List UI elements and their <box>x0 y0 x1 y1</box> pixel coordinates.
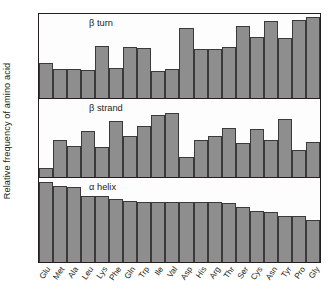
bar <box>179 28 193 98</box>
bar <box>137 48 151 98</box>
x-tick-label: Pro <box>293 265 308 281</box>
x-tick: Thr <box>222 264 236 298</box>
bar <box>123 47 137 98</box>
panel-title-alpha-helix: α helix <box>89 182 116 192</box>
bar <box>109 199 123 262</box>
figure-root: Relative frequency of amino acid β turn … <box>0 0 329 298</box>
bar <box>123 201 137 262</box>
x-tick-label: Glu <box>38 265 53 281</box>
x-tick-label: Tyr <box>279 265 293 279</box>
bar <box>81 70 95 98</box>
x-tick-label: Lys <box>95 265 110 280</box>
x-tick: Ala <box>66 264 80 298</box>
bar <box>53 140 67 177</box>
bar <box>222 128 236 177</box>
bar-group-beta-strand <box>39 99 320 177</box>
bar <box>53 186 67 262</box>
bar <box>194 140 208 177</box>
x-tick-label: Val <box>166 265 180 279</box>
bar <box>292 150 306 177</box>
bar <box>236 207 250 262</box>
bar <box>151 71 165 98</box>
bar <box>109 68 123 98</box>
bar <box>250 129 264 177</box>
x-tick-label: Cys <box>249 265 264 282</box>
x-tick: Phe <box>109 264 123 298</box>
bar <box>222 47 236 98</box>
bar <box>250 37 264 98</box>
x-tick-label: Asp <box>179 265 194 282</box>
bar <box>236 143 250 177</box>
bar <box>264 21 278 98</box>
bar <box>67 146 81 177</box>
bar <box>137 202 151 262</box>
x-tick-label: Ile <box>153 265 165 277</box>
bar <box>151 202 165 262</box>
x-tick: Pro <box>293 264 307 298</box>
x-tick: Met <box>52 264 66 298</box>
x-tick-label: His <box>194 265 208 280</box>
bar <box>165 113 179 177</box>
bar <box>39 63 53 98</box>
bar <box>278 216 292 262</box>
bar <box>306 220 320 262</box>
x-tick-label: Ala <box>67 265 81 280</box>
bar <box>165 202 179 262</box>
bar <box>81 131 95 177</box>
bar <box>53 69 67 98</box>
panel-beta-turn: β turn <box>38 13 321 99</box>
x-tick-label: Ser <box>236 265 251 281</box>
panel-stack: β turn β strand α helix <box>38 13 321 263</box>
bar <box>67 187 81 262</box>
x-tick: Lys <box>95 264 109 298</box>
bar-group-alpha-helix <box>39 178 320 262</box>
x-tick: His <box>194 264 208 298</box>
bar <box>250 211 264 262</box>
x-tick-label: Trp <box>137 265 151 280</box>
x-tick-label: Arg <box>208 265 223 281</box>
x-tick: Asn <box>265 264 279 298</box>
bar <box>137 126 151 177</box>
bar <box>67 69 81 98</box>
x-tick: Tyr <box>279 264 293 298</box>
x-tick: Val <box>165 264 179 298</box>
x-tick: Glu <box>38 264 52 298</box>
bar-group-beta-turn <box>39 14 320 98</box>
panel-title-beta-strand: β strand <box>89 103 123 113</box>
x-tick-label: Phe <box>107 265 123 282</box>
bar <box>292 20 306 98</box>
bar <box>95 147 109 177</box>
x-tick: Leu <box>80 264 94 298</box>
bar <box>208 202 222 262</box>
bar <box>123 136 137 177</box>
bar <box>179 157 193 177</box>
bar <box>194 202 208 262</box>
y-axis-title: Relative frequency of amino acid <box>0 0 14 262</box>
bar <box>39 182 53 262</box>
x-tick: Cys <box>250 264 264 298</box>
bar <box>95 46 109 98</box>
x-tick-label: Gln <box>123 265 138 281</box>
x-tick: Gly <box>307 264 321 298</box>
bar <box>179 202 193 262</box>
x-tick: Gln <box>123 264 137 298</box>
bar <box>292 216 306 262</box>
bar <box>151 115 165 177</box>
x-tick-label: Thr <box>222 265 236 280</box>
bar <box>306 142 320 177</box>
bar <box>109 121 123 177</box>
bar <box>208 49 222 98</box>
bar <box>194 49 208 98</box>
x-tick-label: Gly <box>307 265 321 280</box>
x-tick: Trp <box>137 264 151 298</box>
bar <box>264 212 278 262</box>
panel-alpha-helix: α helix <box>38 178 321 263</box>
bar <box>306 17 320 98</box>
bar <box>165 69 179 98</box>
bar <box>95 196 109 262</box>
x-tick-label: Asn <box>263 265 278 282</box>
bar <box>236 26 250 98</box>
x-tick: Ser <box>236 264 250 298</box>
x-tick: Arg <box>208 264 222 298</box>
x-tick: Ile <box>151 264 165 298</box>
